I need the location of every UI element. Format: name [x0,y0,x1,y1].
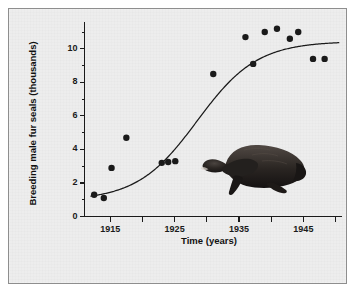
y-axis-title: Breeding male fur seals (thousands) [27,29,38,219]
y-tick-label: 0 [53,211,78,221]
fitted-logistic-curve [91,43,339,196]
x-tick-label: 1915 [90,224,130,234]
scatter-point [262,29,268,35]
scatter-point [210,71,216,77]
x-tick-label: 1945 [283,224,323,234]
scatter-point [123,134,129,140]
y-tick-label: 8 [53,76,78,86]
scatter-point [91,192,97,198]
scatter-point [321,56,327,62]
y-tick-label: 4 [53,143,78,153]
y-tick-label: 10 [53,43,78,53]
x-tick-label: 1935 [219,224,259,234]
y-tick-label: 2 [53,177,78,187]
scatter-point [159,160,165,166]
scatter-point [165,159,171,165]
scatter-point [274,26,280,32]
figure: 0246810 1915192519351945 Breeding male f… [0,0,357,294]
scatter-point [310,56,316,62]
x-axis-title: Time (years) [84,235,334,246]
scatter-point [250,61,256,67]
scatter-point [287,36,293,42]
x-tick-label: 1925 [155,224,195,234]
scatter-point [295,29,301,35]
scatter-point [101,195,107,201]
y-tick-label: 6 [53,110,78,120]
axis-lines [85,22,343,217]
scatter-points-group [91,26,328,202]
scatter-point [242,34,248,40]
scatter-point [108,165,114,171]
scatter-point [172,158,178,164]
